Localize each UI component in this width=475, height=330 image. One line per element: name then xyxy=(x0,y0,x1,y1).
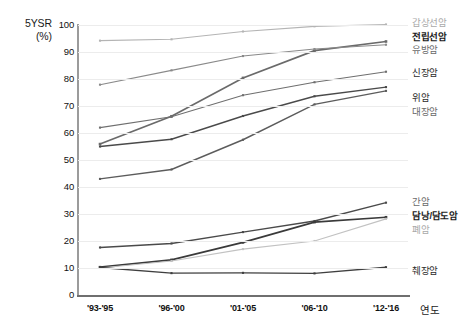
legend-item-대장암: 대장암 xyxy=(412,106,438,117)
gridline-90 xyxy=(78,52,408,53)
data-point xyxy=(385,86,387,88)
y-tick-40: 40 xyxy=(52,181,74,192)
series-line-갑상선암 xyxy=(100,24,386,40)
x-tick-2: '01-'05 xyxy=(230,303,256,313)
data-point xyxy=(99,127,101,129)
y-tick-30: 30 xyxy=(52,208,74,219)
y-tick-70: 70 xyxy=(52,100,74,111)
gridline-40 xyxy=(78,187,408,188)
gridline-100 xyxy=(78,25,408,26)
gridline-30 xyxy=(78,214,408,215)
x-axis-tick-labels: '93-'95'96-'00'01-'05'06-'10'12-'16 xyxy=(78,303,408,319)
data-point xyxy=(313,95,315,97)
data-point xyxy=(313,221,316,224)
legend-item-유방암: 유방암 xyxy=(412,44,438,55)
data-point xyxy=(385,218,387,220)
series-line-대장암 xyxy=(100,91,386,179)
y-tick-10: 10 xyxy=(52,262,74,273)
legend-item-간암: 간암 xyxy=(412,196,429,207)
legend-item-전립선암: 전립선암 xyxy=(412,31,447,42)
data-point xyxy=(385,202,387,204)
data-point xyxy=(99,84,101,86)
data-point xyxy=(242,231,244,233)
data-point xyxy=(170,242,172,244)
data-point xyxy=(242,30,244,32)
x-tick-0: '93-'95 xyxy=(87,303,113,313)
legend-item-위암: 위암 xyxy=(412,92,429,103)
legend-item-갑상선암: 갑상선암 xyxy=(412,17,447,28)
data-point xyxy=(99,178,101,180)
y-tick-60: 60 xyxy=(52,127,74,138)
data-point xyxy=(242,94,244,96)
y-axis-tick-labels: 1009080706050403020100 xyxy=(50,0,74,330)
data-point xyxy=(313,48,315,50)
gridline-10 xyxy=(78,268,408,269)
data-point xyxy=(385,40,388,43)
legend-item-신장암: 신장암 xyxy=(412,67,438,78)
legend-item-췌장암: 췌장암 xyxy=(412,265,438,276)
data-point xyxy=(170,38,172,40)
y-tick-0: 0 xyxy=(52,289,74,300)
data-point xyxy=(170,138,172,140)
data-point xyxy=(170,69,172,71)
y-tick-100: 100 xyxy=(52,19,74,30)
x-tick-4: '12-'16 xyxy=(373,303,399,313)
legend-item-담낭/담도암: 담낭/담도암 xyxy=(412,210,458,221)
data-point xyxy=(313,272,315,274)
data-point xyxy=(170,168,172,170)
data-point xyxy=(385,44,387,46)
data-point xyxy=(99,143,102,146)
data-point xyxy=(242,272,244,274)
y-axis-title-line2: (%) xyxy=(4,30,52,42)
data-point xyxy=(170,260,172,262)
data-point xyxy=(242,115,244,117)
y-tick-50: 50 xyxy=(52,154,74,165)
gridline-20 xyxy=(78,241,408,242)
y-tick-80: 80 xyxy=(52,73,74,84)
x-axis-title: 연도 xyxy=(420,302,440,317)
data-point xyxy=(242,55,244,57)
data-point xyxy=(242,139,244,141)
data-point xyxy=(385,71,387,73)
data-point xyxy=(313,81,315,83)
plot-area xyxy=(78,25,408,295)
data-point xyxy=(242,248,244,250)
data-point xyxy=(99,145,101,147)
y-tick-20: 20 xyxy=(52,235,74,246)
data-point xyxy=(385,90,387,92)
gridline-60 xyxy=(78,133,408,134)
data-point xyxy=(170,272,172,274)
gridline-80 xyxy=(78,79,408,80)
x-tick-1: '96-'00 xyxy=(159,303,185,313)
y-tick-90: 90 xyxy=(52,46,74,57)
line-chart: 5YSR (%) 1009080706050403020100 '93-'95'… xyxy=(0,0,475,330)
legend-item-폐암: 폐암 xyxy=(412,224,429,235)
data-point xyxy=(99,246,101,248)
data-point xyxy=(170,116,172,118)
y-axis-title-line1: 5YSR xyxy=(4,17,52,29)
x-tick-3: '06-'10 xyxy=(302,303,328,313)
x-axis-line xyxy=(77,295,410,297)
gridline-70 xyxy=(78,106,408,107)
gridline-50 xyxy=(78,160,408,161)
data-point xyxy=(99,40,101,42)
